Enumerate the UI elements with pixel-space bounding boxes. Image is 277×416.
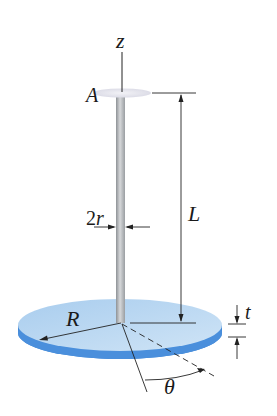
- length-label: L: [188, 203, 200, 225]
- length-dimension: [130, 93, 196, 323]
- z-axis-label: z: [116, 30, 125, 52]
- radius-label: R: [66, 308, 79, 330]
- point-a-label: A: [86, 85, 98, 105]
- thickness-label: t: [245, 302, 251, 322]
- angle-label: θ: [164, 376, 175, 398]
- rod: [116, 93, 125, 323]
- thickness-dimension: [228, 305, 246, 359]
- diameter-label: 2r: [86, 208, 104, 228]
- torsion-pendulum-diagram: z A 2r L t R θ: [0, 0, 277, 416]
- diagram-graphics: [0, 0, 277, 416]
